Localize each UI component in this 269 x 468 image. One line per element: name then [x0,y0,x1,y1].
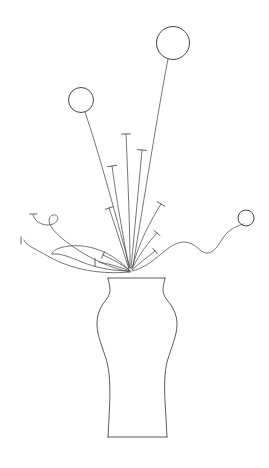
leaf-upper-edge [52,246,130,271]
flower-arrangement-drawing [0,0,269,468]
left-curl-tendril [33,215,130,272]
medium-bloom-stem [85,112,130,268]
small-bloom-circle [238,210,254,226]
stem-right-long-tip [157,202,165,207]
stem-right-low [132,251,155,270]
stem-right-low-tip [153,248,157,253]
tendril-group [21,214,243,273]
large-bloom-circle [157,27,190,60]
stem-left-mid [112,166,129,268]
stem-upright-right-tip [138,150,147,151]
artboard: Line drawing of a flower arrangement in … [0,0,269,468]
vase-outline-right [163,278,177,437]
stem-upright-center [126,134,130,268]
large-bloom-stem [133,59,168,266]
stem-left-low-tip [102,252,105,258]
bloom-group [69,27,255,269]
vase-group [97,278,177,437]
vase-outline-left [97,278,110,437]
right-wavy-tendril [132,224,243,271]
broad-leaf-group [52,246,130,271]
stem-upright-right [131,150,142,268]
stem-left-short [109,208,129,269]
medium-bloom-circle [69,88,94,113]
stem-group [102,134,165,270]
